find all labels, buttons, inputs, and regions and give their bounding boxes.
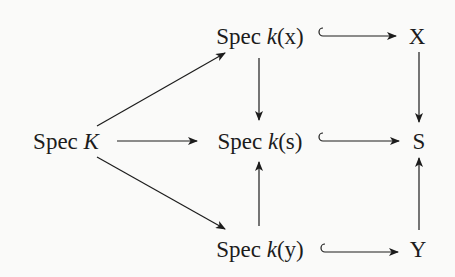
hook-arrow-specks-to-S [319,133,399,141]
field-var: k [267,237,277,262]
commutative-diagram: Spec k(x) X Spec K Spec k(s) S Spec k(y)… [0,0,455,277]
point-arg: (x) [277,24,304,49]
point-arg: (s) [278,129,302,154]
node-spec-ky: Spec k(y) [216,238,304,261]
node-spec-K: Spec K [33,130,99,153]
arrow-specK-to-specky [97,157,225,229]
node-spec-ks: Spec k(s) [218,130,303,153]
spec-operator: Spec [216,237,261,262]
node-X: X [409,25,426,48]
point-arg: (y) [277,237,304,262]
field-var: K [84,129,99,154]
spec-operator: Spec [216,24,261,49]
node-spec-kx: Spec k(x) [216,25,304,48]
hook-arrow-specky-to-Y [321,244,398,252]
node-Y: Y [410,238,427,261]
hook-arrow-speckx-to-X [319,28,396,36]
field-var: k [268,129,278,154]
spec-operator: Spec [33,129,78,154]
node-S: S [413,130,426,153]
spec-operator: Spec [218,129,263,154]
arrow-specK-to-speckx [97,53,225,126]
field-var: k [267,24,277,49]
